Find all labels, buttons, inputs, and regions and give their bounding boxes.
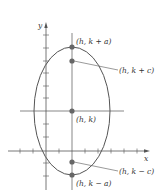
label-vertex-top: (h, k + a) <box>76 37 112 46</box>
point-center <box>69 108 74 113</box>
leader-line-focus-bottom <box>74 162 118 171</box>
label-focus-bottom: (h, k − c) <box>119 167 154 176</box>
x-axis <box>8 149 146 154</box>
x-axis-arrow-icon <box>144 149 150 152</box>
y-axis-label: y <box>37 21 43 30</box>
y-axis-arrow-icon <box>44 22 47 28</box>
label-focus-top: (h, k + c) <box>119 66 154 75</box>
point-vertex-top <box>69 44 74 49</box>
y-axis <box>43 27 49 190</box>
point-vertex-bottom <box>69 172 74 177</box>
x-axis-label: x <box>144 154 149 163</box>
point-focus-bottom <box>69 159 74 164</box>
point-focus-top <box>69 58 74 63</box>
label-vertex-bottom: (h, k − a) <box>76 179 112 188</box>
ellipse-diagram: y x (h, k + a) (h, k + c) (h, k) (h, k −… <box>0 0 162 195</box>
leader-line-focus-top <box>74 61 118 70</box>
label-center: (h, k) <box>76 115 96 124</box>
